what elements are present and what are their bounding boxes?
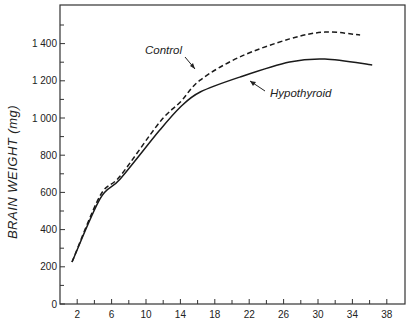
- y-tick-label: 0: [51, 299, 57, 310]
- y-tick-label: 800: [40, 150, 57, 161]
- x-tick-label: 38: [381, 309, 393, 320]
- x-tick-label: 14: [175, 309, 187, 320]
- x-tick-label: 22: [244, 309, 256, 320]
- hypothyroid-arrowhead-icon: [250, 81, 256, 86]
- x-tick-label: 18: [209, 309, 221, 320]
- y-tick-label: 200: [40, 261, 57, 272]
- series-layer: [72, 32, 372, 262]
- y-tick-label: 600: [40, 187, 57, 198]
- control-line: [72, 32, 360, 262]
- hypothyroid-label: Hypothyroid: [270, 87, 332, 99]
- x-axis-ticks: 261014182226303438: [74, 299, 392, 320]
- plot-frame: [60, 5, 405, 304]
- y-tick-label: 1 000: [32, 113, 57, 124]
- control-label: Control: [145, 44, 183, 56]
- x-tick-label: 26: [278, 309, 290, 320]
- x-tick-label: 6: [109, 309, 115, 320]
- x-tick-label: 2: [74, 309, 80, 320]
- x-tick-label: 34: [347, 309, 359, 320]
- y-tick-label: 1 400: [32, 38, 57, 49]
- y-tick-label: 1 200: [32, 75, 57, 86]
- y-axis-title: BRAIN WEIGHT (mg): [5, 105, 20, 239]
- brain-weight-chart: 02004006008001 0001 2001 400 26101418222…: [0, 0, 411, 326]
- x-tick-label: 10: [140, 309, 152, 320]
- x-tick-label: 30: [312, 309, 324, 320]
- y-tick-label: 400: [40, 224, 57, 235]
